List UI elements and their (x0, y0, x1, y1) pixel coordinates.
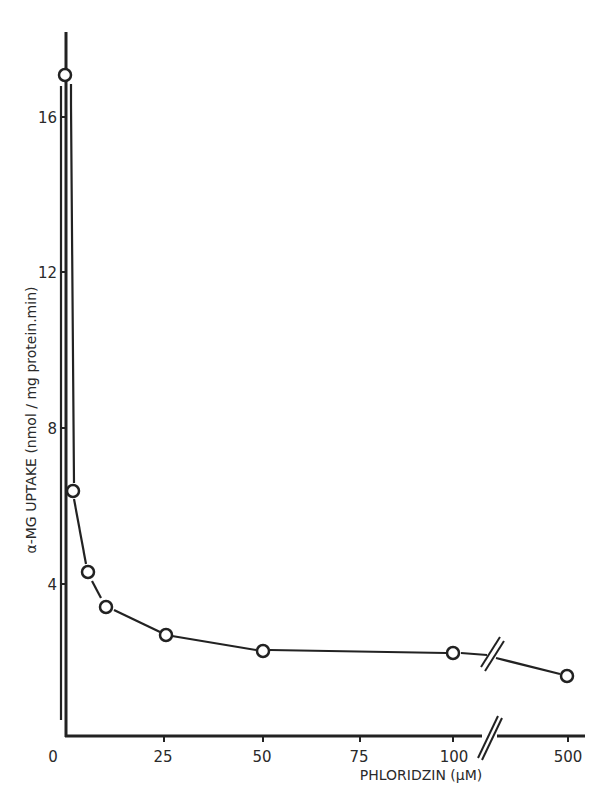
x-tick-label: 50 (252, 748, 271, 766)
x-tick-label: 25 (153, 748, 172, 766)
data-point (67, 485, 79, 497)
line-chart: 4 8 12 16 0 25 50 75 100 500 PHLORIDZIN … (0, 0, 599, 803)
x-tick-label: 500 (554, 748, 583, 766)
x-tick-label: 100 (440, 748, 469, 766)
data-point (100, 601, 112, 613)
y-tick-label: 12 (38, 264, 57, 282)
data-point (160, 629, 172, 641)
data-point (257, 645, 269, 657)
x-tick-label: 0 (48, 748, 58, 766)
x-axis-label: PHLORIDZIN (μM) (360, 767, 482, 783)
x-axis-break-mark (482, 718, 502, 760)
data-series (61, 84, 560, 720)
y-tick-label: 8 (47, 420, 57, 438)
data-point (59, 69, 71, 81)
data-point (561, 670, 573, 682)
x-tick-label: 75 (349, 748, 368, 766)
y-axis-label: α-MG UPTAKE (nmol / mg protein.min) (23, 287, 39, 554)
y-tick-label: 16 (38, 109, 57, 127)
data-point (82, 566, 94, 578)
data-markers (59, 69, 573, 682)
data-point (447, 647, 459, 659)
y-tick-label: 4 (47, 576, 57, 594)
